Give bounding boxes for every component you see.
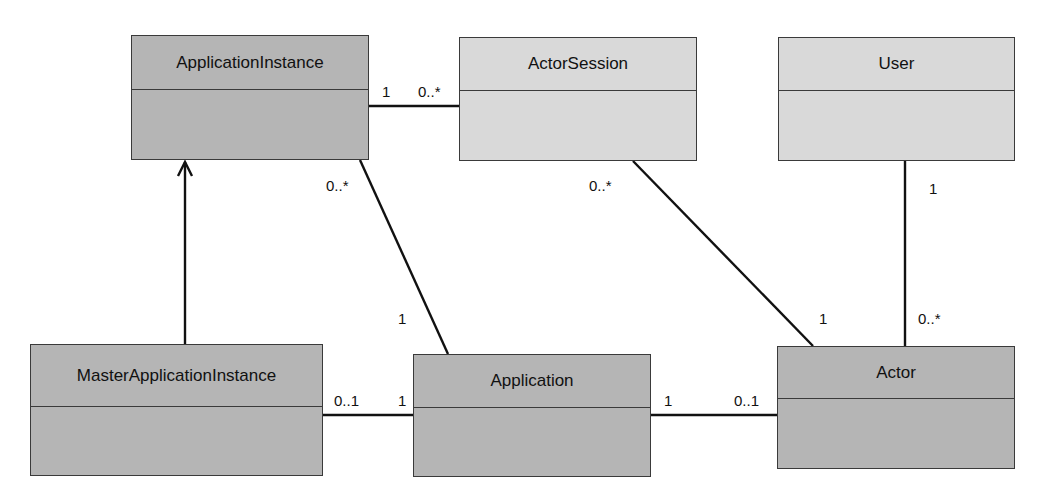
class-name: ApplicationInstance (132, 36, 368, 90)
class-name: ActorSession (460, 38, 696, 91)
multiplicity-label: 1 (819, 311, 827, 326)
multiplicity-label: 1 (398, 311, 406, 326)
multiplicity-label: 0..* (589, 178, 612, 193)
multiplicity-label: 1 (398, 393, 406, 408)
class-application[interactable]: Application (413, 354, 651, 477)
multiplicity-label: 0..* (326, 178, 349, 193)
class-name: Actor (778, 347, 1014, 399)
multiplicity-label: 1 (664, 393, 672, 408)
multiplicity-label: 1 (929, 181, 937, 196)
class-name: User (779, 38, 1014, 91)
class-name: Application (414, 355, 650, 408)
class-user[interactable]: User (778, 37, 1015, 161)
multiplicity-label: 0..1 (334, 393, 359, 408)
class-actor[interactable]: Actor (777, 346, 1015, 469)
multiplicity-label: 1 (382, 84, 390, 99)
class-applicationinstance[interactable]: ApplicationInstance (131, 35, 369, 160)
class-masterapplicationinstance[interactable]: MasterApplicationInstance (30, 344, 323, 476)
association-actorsession-actor (633, 161, 813, 346)
class-name: MasterApplicationInstance (31, 345, 322, 407)
class-actorsession[interactable]: ActorSession (459, 37, 697, 161)
multiplicity-label: 0..* (918, 311, 941, 326)
uml-class-diagram: ApplicationInstance ActorSession User Ma… (0, 0, 1045, 500)
multiplicity-label: 0..1 (734, 393, 759, 408)
multiplicity-label: 0..* (418, 84, 441, 99)
